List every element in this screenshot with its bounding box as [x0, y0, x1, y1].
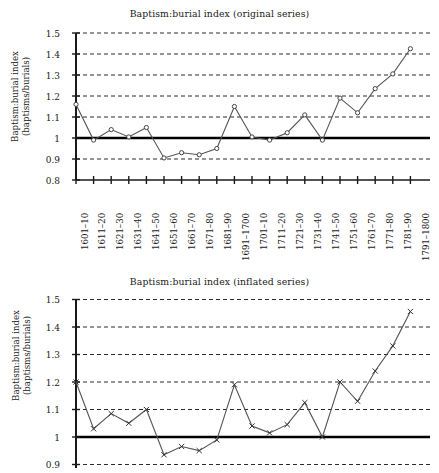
- figure-page: Baptism:burial index (original series) B…: [0, 0, 439, 473]
- gridlines: [76, 300, 430, 465]
- plot-area-inflated: [0, 262, 439, 473]
- series-markers-inflated: [73, 309, 413, 457]
- chart-inflated-series: Baptism:burial index (inflated series) B…: [0, 262, 439, 473]
- series-markers-original: [74, 47, 413, 160]
- gridlines: [76, 33, 430, 159]
- series-line-original: [76, 49, 410, 158]
- plot-area-original: [0, 0, 439, 262]
- series-line-inflated: [76, 312, 410, 455]
- chart-original-series: Baptism:burial index (original series) B…: [0, 0, 439, 262]
